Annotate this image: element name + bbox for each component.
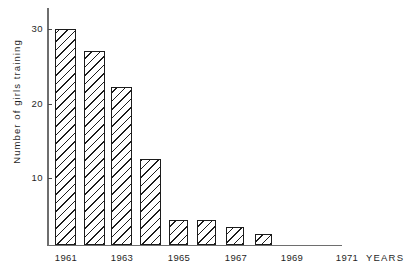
x-tick-label-1967: 1967 — [216, 252, 256, 263]
bar-1961 — [55, 29, 76, 245]
bar-1964 — [140, 159, 161, 245]
y-tick-label-30: 30 — [21, 23, 43, 34]
y-axis-label: Number of girls training — [11, 2, 22, 202]
y-tick-label-20: 20 — [21, 98, 43, 109]
x-axis-title: YEARS — [366, 252, 404, 263]
y-tick-label-10: 10 — [21, 172, 43, 183]
x-tick-label-1969: 1969 — [272, 252, 312, 263]
bar-1962 — [84, 51, 105, 245]
y-tick-mark-20 — [48, 104, 52, 105]
bar-1966 — [197, 220, 216, 245]
y-tick-mark-10 — [48, 178, 52, 179]
y-axis-line — [47, 8, 49, 246]
bar-1968 — [255, 234, 272, 245]
bar-1965 — [169, 220, 188, 245]
x-tick-label-1965: 1965 — [159, 252, 199, 263]
x-tick-label-1963: 1963 — [102, 252, 142, 263]
bar-1967 — [226, 227, 244, 245]
x-tick-label-1961: 1961 — [46, 252, 86, 263]
y-tick-mark-30 — [48, 29, 52, 30]
bar-chart-figure: Number of girls training 30 20 10 1961 1… — [0, 0, 411, 276]
x-tick-label-1971: 1971 — [327, 252, 367, 263]
bar-1963 — [111, 87, 132, 245]
